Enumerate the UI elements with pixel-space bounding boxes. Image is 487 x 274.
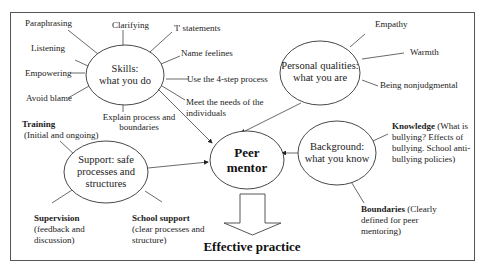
- support-title-1: Support: safe: [78, 154, 134, 165]
- training-label: Training: [22, 119, 56, 129]
- skill-explain-1: Explain process and: [103, 112, 176, 122]
- school-support-detail-1: (clear processes and: [132, 224, 205, 234]
- outcome-arrow: [224, 194, 281, 235]
- skill-meet-needs-2: individuals: [186, 108, 226, 118]
- background-title-1: Background:: [310, 141, 364, 152]
- skills-title-2: what you do: [99, 75, 151, 86]
- boundaries-text-2: defined for peer: [361, 215, 418, 225]
- supervision-detail-1: (feedback and: [34, 224, 85, 234]
- skill-avoid-blame: Avoid blame: [26, 93, 72, 103]
- skill-i-statements: 'I' statements: [174, 23, 221, 33]
- boundaries-text-1: Boundaries (Clearly: [361, 204, 437, 214]
- peer-mentor-diagram: Skills: what you do Paraphrasing Clarify…: [0, 0, 487, 274]
- skill-name-feelings: Name feelines: [181, 48, 233, 58]
- skill-clarifying: Clarifying: [112, 20, 149, 30]
- support-title-3: structures: [86, 178, 127, 189]
- effective-practice-label: Effective practice: [203, 239, 300, 254]
- skill-listening: Listening: [31, 43, 65, 53]
- quality-nonjudgmental: Being nonjudgmental: [380, 80, 458, 90]
- skills-cluster: Skills: what you do Paraphrasing Clarify…: [25, 18, 268, 132]
- personal-cluster: Personal qualities: what you are Empathy…: [280, 19, 458, 105]
- quality-empathy: Empathy: [375, 19, 408, 29]
- background-cluster: Background: what you know Knowledge (Wha…: [298, 121, 470, 236]
- skill-empowering: Empowering: [25, 68, 72, 78]
- support-cluster: Support: safe processes and structures T…: [22, 119, 205, 245]
- knowledge-text-2: bullying? Effects of: [392, 132, 463, 142]
- knowledge-text-4: bullying policies): [392, 154, 455, 164]
- skill-four-step: Use the 4-step process: [187, 74, 268, 84]
- background-title-2: what you know: [305, 153, 370, 164]
- school-support-detail-2: structure): [132, 235, 166, 245]
- support-title-2: processes and: [77, 166, 136, 177]
- peer-mentor-node: Peer mentor: [210, 131, 284, 189]
- skill-paraphrasing: Paraphrasing: [25, 18, 72, 28]
- knowledge-text-1: Knowledge (What is: [392, 121, 469, 131]
- supervision-label: Supervision: [34, 213, 80, 223]
- school-support-label: School support: [132, 213, 190, 223]
- personal-title-2: what you are: [293, 72, 348, 83]
- peer-mentor-title-1: Peer: [234, 145, 259, 160]
- training-detail: (Initial and ongoing): [24, 130, 98, 140]
- quality-warmth: Warmth: [410, 47, 439, 57]
- boundaries-text-3: mentoring): [361, 226, 401, 236]
- skill-explain-2: boundaries: [119, 122, 159, 132]
- skill-meet-needs-1: Meet the needs of the: [186, 97, 263, 107]
- skills-title-1: Skills:: [112, 63, 139, 74]
- supervision-detail-2: discussion): [34, 235, 75, 245]
- peer-mentor-title-2: mentor: [227, 160, 268, 175]
- personal-title-1: Personal qualities:: [281, 60, 358, 71]
- knowledge-text-3: bullying. School anti-: [392, 143, 470, 153]
